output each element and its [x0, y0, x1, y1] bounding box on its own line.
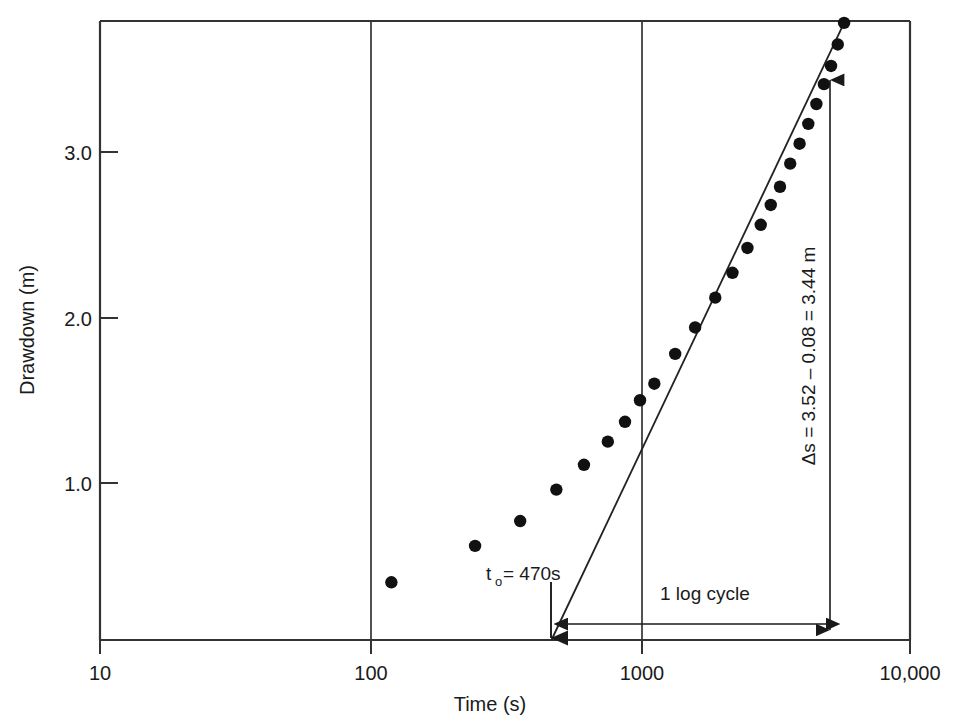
data-point: [774, 181, 786, 193]
data-point: [514, 515, 526, 527]
data-point: [602, 435, 614, 447]
data-point: [726, 267, 738, 279]
chart-svg: 3.0 2.0 1.0 10 100 1000 10,000 Time (s) …: [0, 0, 965, 721]
data-point: [578, 459, 590, 471]
x-tick-label-1000: 1000: [620, 662, 665, 684]
x-tick-label-10000: 10,000: [879, 662, 940, 684]
chart-figure: 3.0 2.0 1.0 10 100 1000 10,000 Time (s) …: [0, 0, 965, 721]
data-point: [838, 17, 850, 29]
data-point: [648, 378, 660, 390]
data-point: [825, 60, 837, 72]
t-zero-label-rest: = 470s: [503, 563, 561, 584]
delta-s-label: Δs = 3.52 – 0.08 = 3.44 m: [798, 247, 819, 466]
data-point: [784, 157, 796, 169]
y-tick-label-2: 2.0: [64, 308, 92, 330]
data-point: [669, 348, 681, 360]
data-point: [469, 540, 481, 552]
data-point: [741, 242, 753, 254]
data-point: [832, 38, 844, 50]
data-point: [793, 138, 805, 150]
x-axis-title: Time (s): [454, 693, 527, 715]
x-tick-label-100: 100: [354, 662, 387, 684]
data-point: [619, 416, 631, 428]
data-point: [709, 291, 721, 303]
y-tick-label-1: 1.0: [64, 473, 92, 495]
data-point: [755, 219, 767, 231]
data-point: [765, 199, 777, 211]
y-axis-title: Drawdown (m): [16, 265, 38, 395]
t-zero-label-subscript: o: [495, 574, 502, 589]
data-point: [385, 576, 397, 588]
data-point: [634, 394, 646, 406]
data-point: [550, 483, 562, 495]
data-point: [689, 321, 701, 333]
one-log-cycle-label: 1 log cycle: [660, 583, 750, 604]
data-point: [818, 78, 830, 90]
data-point: [802, 118, 814, 130]
data-point: [810, 98, 822, 110]
t-zero-label-base: t: [486, 563, 492, 584]
x-tick-label-10: 10: [89, 662, 111, 684]
y-tick-label-3: 3.0: [64, 142, 92, 164]
